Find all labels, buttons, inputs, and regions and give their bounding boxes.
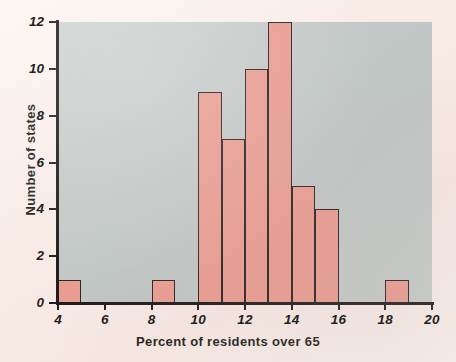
x-tick-4	[57, 303, 59, 310]
x-tick-8	[151, 303, 153, 310]
y-tick-8	[49, 115, 57, 117]
histogram-bar	[268, 22, 291, 303]
histogram-figure: Percent of residents over 65 Number of s…	[0, 0, 456, 362]
x-tick-label-6: 6	[88, 312, 122, 327]
y-tick-10	[49, 68, 57, 70]
plot-area	[58, 22, 432, 303]
x-tick-label-20: 20	[415, 312, 449, 327]
histogram-bar	[58, 280, 81, 303]
x-tick-label-18: 18	[368, 312, 402, 327]
x-tick-18	[384, 303, 386, 310]
y-tick-label-0: 0	[16, 296, 44, 310]
y-tick-label-4: 4	[16, 202, 44, 216]
y-tick-12	[49, 21, 57, 23]
histogram-bar	[292, 186, 315, 303]
x-tick-12	[244, 303, 246, 310]
y-tick-label-8: 8	[16, 109, 44, 123]
x-tick-20	[431, 303, 433, 310]
x-tick-6	[104, 303, 106, 310]
histogram-bar	[222, 139, 245, 303]
x-tick-label-10: 10	[181, 312, 215, 327]
histogram-bar	[198, 92, 221, 303]
x-tick-label-12: 12	[228, 312, 262, 327]
y-tick-label-2: 2	[16, 249, 44, 263]
histogram-bar	[385, 280, 408, 303]
histogram-bar	[152, 280, 175, 303]
y-tick-4	[49, 208, 57, 210]
y-tick-6	[49, 162, 57, 164]
x-tick-10	[197, 303, 199, 310]
x-axis-title: Percent of residents over 65	[0, 334, 456, 349]
histogram-bar	[315, 209, 338, 303]
y-tick-label-12: 12	[16, 15, 44, 29]
x-tick-label-14: 14	[275, 312, 309, 327]
y-tick-0	[49, 302, 57, 304]
y-tick-label-10: 10	[16, 62, 44, 76]
x-tick-label-16: 16	[322, 312, 356, 327]
x-tick-16	[338, 303, 340, 310]
y-tick-label-6: 6	[16, 156, 44, 170]
histogram-bar	[245, 69, 268, 303]
y-tick-2	[49, 255, 57, 257]
x-tick-label-8: 8	[135, 312, 169, 327]
x-tick-label-4: 4	[41, 312, 75, 327]
x-tick-14	[291, 303, 293, 310]
